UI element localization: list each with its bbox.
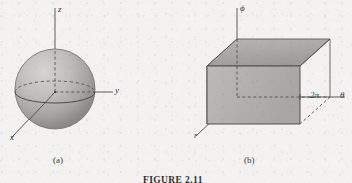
box-hidden-edge-right-depth (300, 97, 330, 124)
figure-page: z y x (a) ϕ θ r 2π (b) FIGURE 2.11 (0, 0, 352, 183)
panel-b-box (196, 8, 345, 136)
figure-caption: FIGURE 2.11 (143, 176, 203, 183)
box-face-front (207, 66, 300, 124)
box-tick-label-two-pi: 2π (310, 91, 319, 100)
sphere-axis-label-y: y (115, 86, 119, 95)
panel-label-a: (a) (53, 156, 63, 165)
sphere-axis-label-x: x (10, 133, 14, 142)
box-axis-label-phi: ϕ (240, 4, 245, 13)
panel-a-sphere (11, 8, 113, 138)
panel-label-b: (b) (244, 156, 255, 165)
sphere-axis-label-z: z (58, 5, 62, 14)
box-axis-label-theta: θ (340, 91, 344, 100)
sphere-origin-dot (54, 91, 56, 93)
box-axis-label-r: r (194, 131, 198, 140)
box-face-top (207, 39, 330, 66)
